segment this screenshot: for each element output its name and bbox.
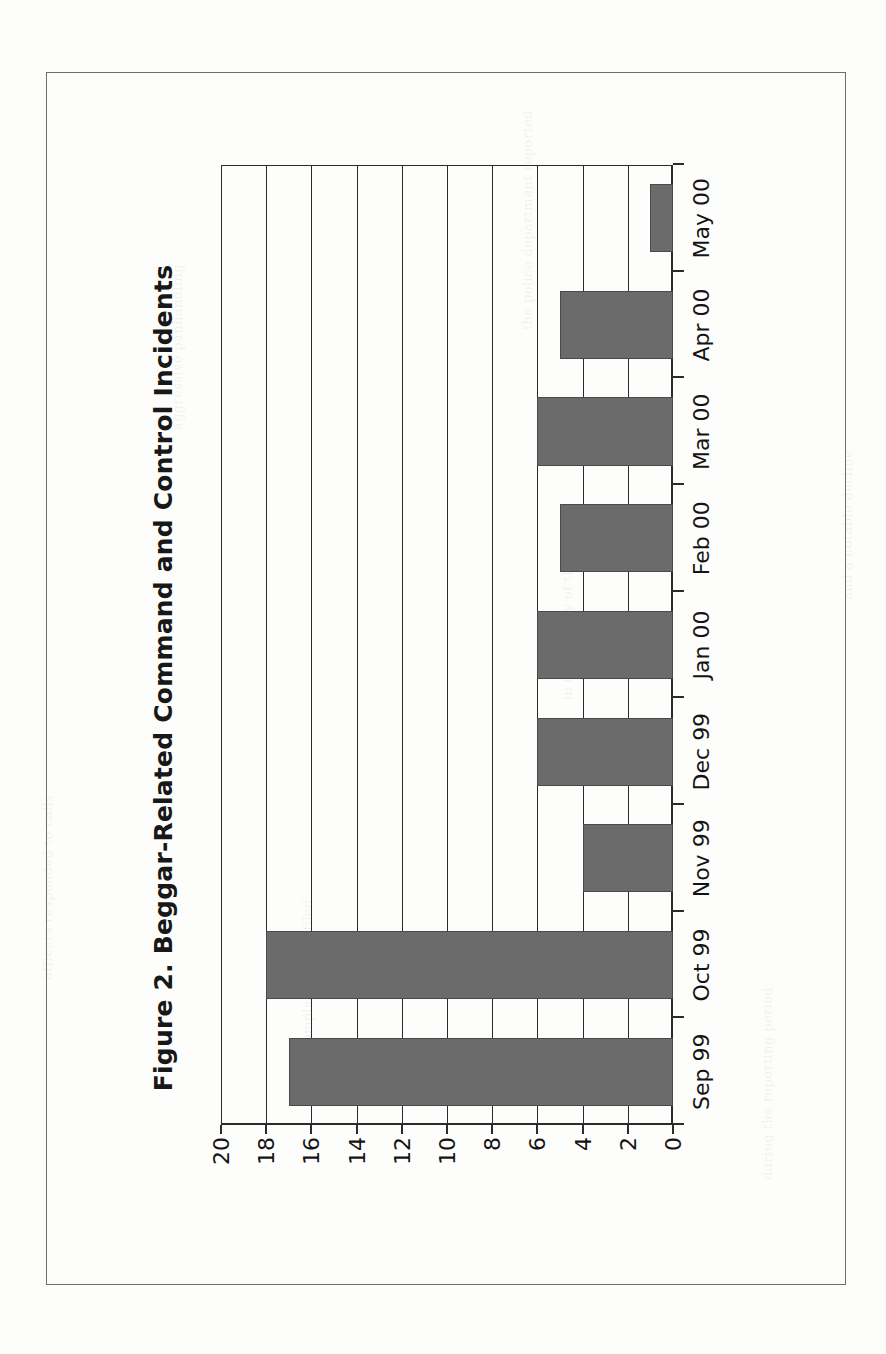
x-tick-label: Dec 99 (689, 698, 714, 805)
bar-slot (221, 805, 673, 912)
y-tick-mark (672, 1125, 674, 1134)
y-tick-label: 12 (389, 1137, 414, 1165)
bar[interactable] (650, 184, 673, 252)
x-tick-mark (673, 1016, 684, 1018)
x-tick-label: Jan 00 (689, 592, 714, 699)
bar[interactable] (266, 931, 673, 999)
x-tick-label: May 00 (689, 165, 714, 272)
bar[interactable] (560, 504, 673, 572)
bar[interactable] (537, 611, 673, 679)
bar-series (221, 165, 673, 1125)
x-tick-mark (673, 163, 684, 165)
x-axis-category-labels: Sep 99Oct 99Nov 99Dec 99Jan 00Feb 00Mar … (689, 165, 714, 1125)
bar-slot (221, 165, 673, 272)
plot-area: 02468101214161820 (221, 165, 673, 1125)
y-tick-mark (536, 1125, 538, 1134)
x-tick-mark (673, 696, 684, 698)
y-tick-mark (446, 1125, 448, 1134)
y-tick-label: 16 (299, 1137, 324, 1165)
bar-slot (221, 1018, 673, 1125)
y-tick-label: 14 (344, 1137, 369, 1165)
y-tick-mark (491, 1125, 493, 1134)
y-tick-mark (401, 1125, 403, 1134)
bar[interactable] (560, 291, 673, 359)
y-tick-mark (220, 1125, 222, 1134)
y-tick-label: 10 (435, 1137, 460, 1165)
scanned-page: the police department reported in the vi… (0, 0, 886, 1354)
bar-chart: Figure 2. Beggar-Related Command and Con… (143, 113, 743, 1243)
x-tick-mark (673, 270, 684, 272)
bar[interactable] (537, 398, 673, 466)
x-tick-mark (673, 1123, 684, 1125)
y-tick-label: 20 (209, 1137, 234, 1165)
bar-slot (221, 485, 673, 592)
x-tick-mark (673, 590, 684, 592)
x-tick-label: Sep 99 (689, 1018, 714, 1125)
x-tick-mark (673, 376, 684, 378)
y-tick-mark (627, 1125, 629, 1134)
bar[interactable] (289, 1038, 673, 1106)
bar[interactable] (537, 718, 673, 786)
y-tick-mark (310, 1125, 312, 1134)
y-tick-label: 0 (661, 1137, 686, 1151)
chart-title: Figure 2. Beggar-Related Command and Con… (149, 113, 178, 1243)
y-tick-mark (582, 1125, 584, 1134)
y-tick-label: 8 (480, 1137, 505, 1151)
x-axis-ticks (673, 165, 685, 1125)
bar-slot (221, 378, 673, 485)
bar[interactable] (583, 824, 673, 892)
y-tick-label: 2 (615, 1137, 640, 1151)
y-tick-label: 6 (525, 1137, 550, 1151)
bar-slot (221, 698, 673, 805)
y-tick-mark (265, 1125, 267, 1134)
x-tick-label: Mar 00 (689, 378, 714, 485)
x-tick-mark (673, 483, 684, 485)
bar-slot (221, 272, 673, 379)
y-tick-label: 18 (254, 1137, 279, 1165)
bar-slot (221, 592, 673, 699)
bar-slot (221, 912, 673, 1019)
y-tick-label: 4 (570, 1137, 595, 1151)
x-tick-label: Oct 99 (689, 912, 714, 1019)
x-tick-label: Nov 99 (689, 805, 714, 912)
y-tick-mark (356, 1125, 358, 1134)
x-tick-label: Feb 00 (689, 485, 714, 592)
x-tick-mark (673, 803, 684, 805)
x-tick-label: Apr 00 (689, 272, 714, 379)
x-tick-mark (673, 910, 684, 912)
